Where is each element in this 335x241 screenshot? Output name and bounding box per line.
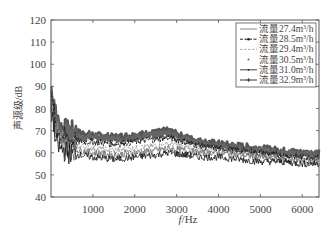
y-tick-label: 40	[35, 191, 47, 203]
legend-label: 流量31.0m3/h	[259, 64, 314, 75]
y-tick-label: 90	[35, 80, 47, 92]
y-tick-label: 110	[30, 36, 47, 48]
chart: 405060708090100110120 100020003000400050…	[0, 0, 335, 241]
legend-marker	[248, 69, 250, 71]
y-tick-label: 120	[30, 14, 47, 26]
legend-label: 流量29.4m3/h	[259, 43, 314, 54]
x-tick-label: 1000	[82, 203, 105, 215]
legend-label: 流量30.5m3/h	[259, 54, 314, 65]
y-tick-label: 60	[35, 147, 47, 159]
series-layer	[51, 87, 319, 167]
legend-marker	[247, 38, 250, 41]
legend-label: 流量27.4m3/h	[259, 23, 314, 34]
x-tick-label: 4000	[208, 203, 231, 215]
legend-label: 流量32.9m3/h	[259, 74, 314, 85]
x-tick-label: 2000	[124, 203, 147, 215]
y-tick-label: 80	[35, 103, 47, 115]
legend-label: 流量28.5m3/h	[259, 33, 314, 44]
x-axis-label: f/Hz	[179, 213, 198, 225]
y-tick-label: 70	[35, 125, 47, 137]
legend-marker	[248, 59, 250, 61]
x-tick-label: 5000	[249, 203, 272, 215]
y-tick-label: 50	[35, 169, 47, 181]
y-axis-label: 声源级/dB	[12, 85, 24, 130]
y-tick-label: 100	[30, 58, 47, 70]
legend: 流量27.4m3/h流量28.5m3/h流量29.4m3/h流量30.5m3/h…	[236, 23, 316, 87]
x-tick-label: 6000	[291, 203, 314, 215]
